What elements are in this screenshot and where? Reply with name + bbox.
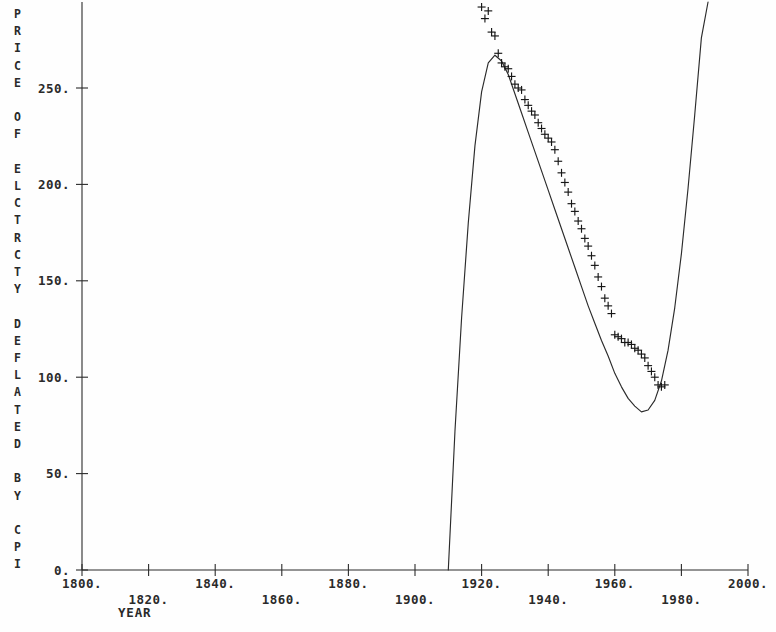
y-axis-title-char: B: [14, 471, 21, 485]
y-axis-title-char: F: [14, 127, 21, 141]
x-axis-tick-label: 1960.: [595, 576, 635, 591]
data-point-marker: [597, 283, 605, 291]
y-axis-title-char: C: [14, 59, 21, 73]
x-axis-tick-label: 1980.: [661, 592, 701, 607]
x-axis-tick-label: 1920.: [462, 576, 502, 591]
y-axis-title-char: F: [14, 351, 21, 365]
y-axis-title-char: C: [14, 196, 21, 210]
fitted-curve-path: [448, 2, 708, 570]
y-axis-title-char: Y: [14, 282, 21, 296]
y-axis-title-char: L: [14, 179, 21, 193]
data-point-marker: [578, 225, 586, 233]
y-axis-title-char: L: [14, 368, 21, 382]
data-point-marker: [564, 188, 572, 196]
y-axis-title-char: T: [14, 213, 21, 227]
y-axis-title-char: I: [14, 557, 21, 571]
y-axis-tick-label: 200.: [38, 177, 70, 192]
data-point-marker: [581, 234, 589, 242]
y-axis-title-char: E: [14, 334, 21, 348]
x-axis-tick-label: 1880.: [328, 576, 368, 591]
data-point-marker: [604, 302, 612, 310]
scatter-plot-with-fitted-curve: 0.50.100.150.200.250. 1800.1820.1840.186…: [0, 0, 776, 632]
y-axis-title-char: A: [14, 385, 21, 399]
data-point-marker: [558, 169, 566, 177]
data-point-marker: [568, 200, 576, 208]
data-point-marker: [607, 310, 615, 318]
y-axis-tick-label: 50.: [46, 466, 70, 481]
data-point-marker: [591, 261, 599, 269]
data-point-marker: [587, 252, 595, 260]
x-axis-tick-label: 1940.: [528, 592, 568, 607]
y-axis-title-char: T: [14, 403, 21, 417]
data-point-marker: [601, 294, 609, 302]
y-axis-title-char: C: [14, 248, 21, 262]
x-axis-title: YEAR: [118, 605, 151, 620]
y-axis-tick-labels: 0.50.100.150.200.250.: [38, 81, 70, 578]
chart-container: 0.50.100.150.200.250. 1800.1820.1840.186…: [0, 0, 776, 632]
data-point-marker: [594, 273, 602, 281]
data-point-marker: [571, 207, 579, 215]
y-axis-title-char: E: [14, 420, 21, 434]
y-axis-title-char: I: [14, 41, 21, 55]
y-axis-title-char: R: [14, 231, 21, 245]
y-axis-title-char: Y: [14, 489, 21, 503]
y-axis-title-char: O: [14, 110, 21, 124]
y-axis-title-char: D: [14, 437, 21, 451]
y-axis-tick-label: 250.: [38, 81, 70, 96]
y-axis-title-char: E: [14, 162, 21, 176]
data-point-markers: [478, 3, 669, 391]
y-axis-title-char: R: [14, 24, 21, 38]
x-axis-tick-label: 2000.: [728, 576, 768, 591]
y-axis-title-char: D: [14, 317, 21, 331]
x-axis-tick-label: 1800.: [62, 576, 102, 591]
y-axis-tick-label: 150.: [38, 273, 70, 288]
data-point-marker: [478, 3, 486, 11]
data-point-marker: [508, 72, 516, 80]
x-axis: 1800.1820.1840.1860.1880.1900.1920.1940.…: [62, 564, 768, 607]
x-axis-tick-label: 1840.: [195, 576, 235, 591]
data-point-marker: [561, 178, 569, 186]
data-point-marker: [554, 157, 562, 165]
y-axis-title-char: T: [14, 265, 21, 279]
x-axis-tick-label: 1860.: [262, 592, 302, 607]
x-axis-tick-label: 1900.: [395, 592, 435, 607]
y-axis-title-char: C: [14, 523, 21, 537]
y-axis-title-char: P: [14, 7, 21, 21]
x-axis-tick-labels: 1800.1820.1840.1860.1880.1900.1920.1940.…: [62, 576, 768, 607]
data-point-marker: [551, 146, 559, 154]
data-point-marker: [584, 242, 592, 250]
data-point-marker: [484, 7, 492, 15]
fitted-curve: [448, 2, 708, 570]
y-axis-title-char: P: [14, 540, 21, 554]
data-point-marker: [574, 217, 582, 225]
y-axis: 0.50.100.150.200.250.: [38, 2, 88, 578]
y-axis-title-char: E: [14, 76, 21, 90]
y-axis-tick-label: 100.: [38, 370, 70, 385]
data-point-marker: [481, 15, 489, 23]
y-axis-title: PRICEOFELCTRCTYDEFLATEDBYCPI: [14, 7, 21, 571]
